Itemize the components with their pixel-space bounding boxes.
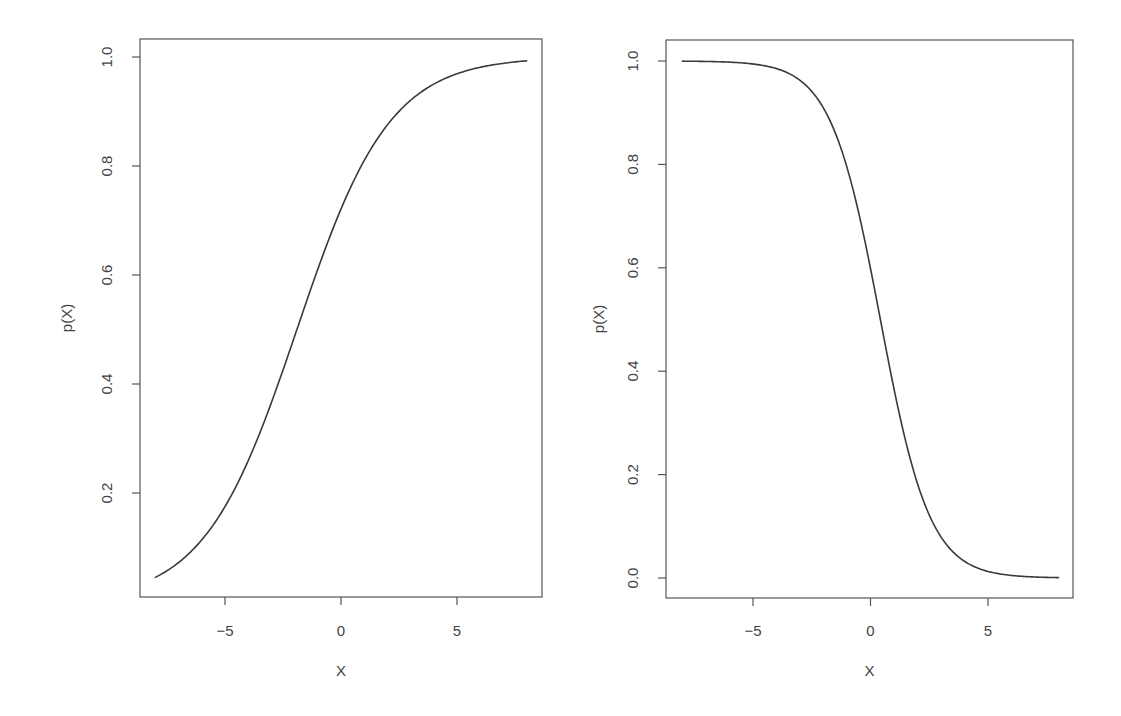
y-tick-label: 0.6 [98, 265, 115, 286]
left-plot-panel: −505 0.20.40.60.81.0 X p(X) [58, 39, 542, 679]
logistic-curve-decreasing [683, 61, 1059, 577]
figure-canvas: −505 0.20.40.60.81.0 X p(X) −505 0.00.20… [0, 0, 1121, 716]
y-tick-label: 0.4 [624, 361, 641, 382]
y-axis-label: p(X) [590, 305, 607, 333]
x-tick-label: 0 [866, 622, 874, 639]
x-axis: −505 [216, 597, 461, 639]
y-axis-label: p(X) [58, 304, 75, 332]
x-axis-label: X [864, 662, 874, 679]
x-tick-label: −5 [744, 622, 761, 639]
plot-frame [666, 40, 1073, 598]
y-tick-label: 0.4 [98, 374, 115, 395]
plot-frame [140, 39, 542, 597]
logistic-curve-increasing [155, 61, 526, 578]
y-tick-label: 0.8 [624, 154, 641, 175]
y-axis: 0.20.40.60.81.0 [98, 47, 140, 504]
y-tick-label: 0.2 [624, 464, 641, 485]
x-axis: −505 [744, 598, 992, 639]
y-tick-label: 0.6 [624, 257, 641, 278]
right-plot-panel: −505 0.00.20.40.60.81.0 X p(X) [590, 40, 1073, 679]
x-tick-label: 0 [337, 622, 345, 639]
x-tick-label: 5 [453, 622, 461, 639]
y-tick-label: 0.0 [624, 568, 641, 589]
y-tick-label: 1.0 [624, 51, 641, 72]
y-tick-label: 1.0 [98, 47, 115, 68]
y-axis: 0.00.20.40.60.81.0 [624, 51, 666, 589]
x-axis-label: X [336, 662, 346, 679]
y-tick-label: 0.8 [98, 156, 115, 177]
x-tick-label: 5 [984, 622, 992, 639]
y-tick-label: 0.2 [98, 483, 115, 504]
x-tick-label: −5 [216, 622, 233, 639]
